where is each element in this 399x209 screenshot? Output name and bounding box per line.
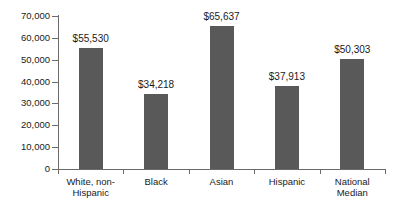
y-axis-tick-label-wrap: 70,000: [0, 11, 50, 21]
bar-value-label: $34,218: [121, 80, 191, 90]
x-axis-category-label: Asian: [189, 176, 254, 187]
y-axis-tick-label-wrap: 50,000: [0, 55, 50, 65]
x-axis-label-line: Median: [320, 187, 385, 198]
x-axis-category-label: Black: [123, 176, 188, 187]
y-axis-tick-label: 30,000: [0, 98, 50, 108]
y-axis-tick: [52, 16, 58, 17]
y-axis-tick-label: 0: [0, 164, 50, 174]
x-axis-label-line: White, non-: [58, 176, 123, 187]
x-axis-label-line: Hispanic: [58, 187, 123, 198]
x-axis-label-line: Asian: [189, 176, 254, 187]
x-axis-tick: [320, 169, 321, 174]
y-axis-tick-label-wrap: 10,000: [0, 142, 50, 152]
y-axis-tick-label-wrap: 30,000: [0, 98, 50, 108]
y-axis-tick-label-wrap: 60,000: [0, 33, 50, 43]
bar: [340, 59, 364, 169]
y-axis-tick-label-wrap: 40,000: [0, 77, 50, 87]
x-axis-tick: [58, 169, 59, 174]
y-axis-tick-label-wrap: 20,000: [0, 120, 50, 130]
bar-chart: 010,00020,00030,00040,00050,00060,00070,…: [0, 0, 399, 209]
x-axis-category-label: White, non-Hispanic: [58, 176, 123, 198]
y-axis-tick: [52, 147, 58, 148]
x-axis-category-label: Hispanic: [254, 176, 319, 187]
plot-area: 010,00020,00030,00040,00050,00060,00070,…: [0, 0, 399, 209]
x-axis-tick: [189, 169, 190, 174]
bar: [210, 26, 234, 169]
x-axis-tick: [254, 169, 255, 174]
y-axis-tick: [52, 103, 58, 104]
y-axis-tick-label: 40,000: [0, 77, 50, 87]
y-axis-tick-label: 50,000: [0, 55, 50, 65]
bar: [79, 48, 103, 169]
bar-value-label: $50,303: [317, 45, 387, 55]
y-axis-tick-label: 10,000: [0, 142, 50, 152]
y-axis-tick: [52, 125, 58, 126]
x-axis-tick: [123, 169, 124, 174]
x-axis-line: [58, 169, 385, 170]
x-axis-label-line: National: [320, 176, 385, 187]
y-axis-tick-label: 70,000: [0, 11, 50, 21]
bar-value-label: $65,637: [187, 12, 257, 22]
bar-value-label: $37,913: [252, 72, 322, 82]
x-axis-tick: [385, 169, 386, 174]
y-axis-tick: [52, 82, 58, 83]
bar-value-label: $55,530: [56, 34, 126, 44]
y-axis-tick-label-wrap: 0: [0, 164, 50, 174]
x-axis-label-line: Hispanic: [254, 176, 319, 187]
y-axis-tick-label: 60,000: [0, 33, 50, 43]
y-axis-tick: [52, 60, 58, 61]
y-axis-tick-label: 20,000: [0, 120, 50, 130]
bar: [144, 94, 168, 169]
x-axis-label-line: Black: [123, 176, 188, 187]
bar: [275, 86, 299, 169]
x-axis-category-label: NationalMedian: [320, 176, 385, 198]
